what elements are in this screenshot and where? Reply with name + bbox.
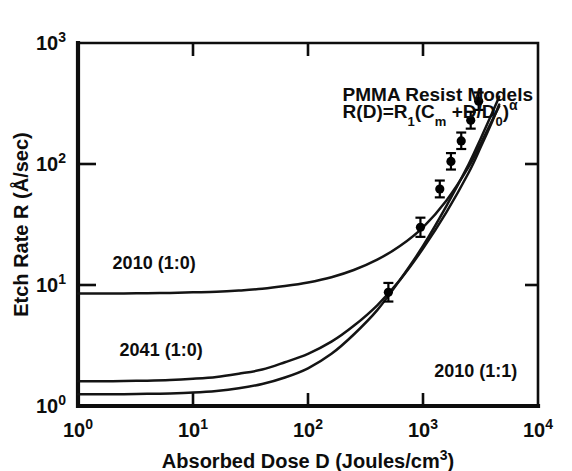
chart-background: [0, 0, 572, 471]
data-point-marker: [416, 223, 425, 232]
data-point-marker: [384, 288, 393, 297]
chart-figure: 100101102103104 100101102103 2010 (1:0)2…: [0, 0, 572, 471]
data-point-marker: [457, 136, 466, 145]
curve-label-2041--1-0-: 2041 (1:0): [120, 340, 203, 360]
curve-label-2010--1-1-: 2010 (1:1): [434, 361, 517, 381]
etch-rate-vs-dose-chart: 100101102103104 100101102103 2010 (1:0)2…: [0, 0, 572, 471]
data-point-marker: [446, 157, 455, 166]
y-axis-title: Etch Rate R (Å/sec): [9, 132, 32, 317]
x-axis-title: Absorbed Dose D (Joules/cm3): [162, 447, 454, 471]
curve-label-2010--1-0-: 2010 (1:0): [113, 253, 196, 273]
data-point-marker: [435, 185, 444, 194]
